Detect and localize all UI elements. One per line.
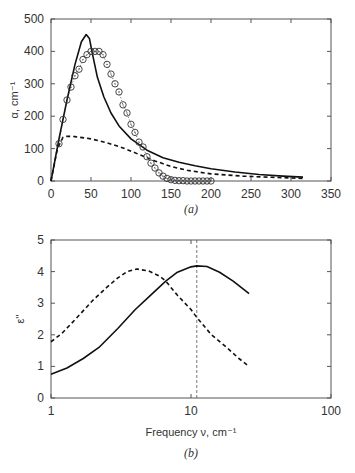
data-marker-dot	[66, 99, 67, 100]
series-dashed	[51, 269, 249, 366]
data-marker-dot	[166, 178, 167, 179]
chart-panel-b: 110100012345	[37, 233, 341, 418]
x-tick-label: 150	[161, 187, 181, 201]
data-marker-dot	[70, 86, 71, 87]
data-marker-dot	[110, 73, 111, 74]
y-tick-label: 500	[24, 12, 44, 26]
figure: 0501001502002503003500100200300400500 11…	[0, 0, 355, 473]
y-tick-label: 100	[24, 142, 44, 156]
data-marker-dot	[98, 51, 99, 52]
data-marker-dot	[134, 132, 135, 133]
x-tick-label: 300	[281, 187, 301, 201]
plot-frame	[51, 19, 331, 181]
y-tick-label: 0	[37, 391, 44, 405]
y-tick-label: 300	[24, 77, 44, 91]
x-tick-label: 50	[84, 187, 98, 201]
y-tick-label: 0	[37, 174, 44, 188]
panel-label-b: (b)	[184, 446, 198, 460]
data-marker-dot	[74, 75, 75, 76]
data-marker-dot	[106, 64, 107, 65]
data-marker-dot	[130, 124, 131, 125]
y-tick-label: 200	[24, 109, 44, 123]
y-tick-label: 1	[37, 359, 44, 373]
x-tick-label: 350	[321, 187, 341, 201]
y-tick-label: 400	[24, 44, 44, 58]
y-axis-label-a: α, cm⁻¹	[8, 81, 20, 118]
data-marker-dot	[118, 91, 119, 92]
x-tick-label: 0	[48, 187, 55, 201]
x-tick-label: 1	[48, 404, 55, 418]
series-solid	[51, 35, 303, 181]
data-marker-dot	[78, 69, 79, 70]
data-marker-dot	[114, 83, 115, 84]
x-tick-label: 10	[184, 404, 198, 418]
x-tick-label: 200	[201, 187, 221, 201]
data-marker-dot	[138, 142, 139, 143]
data-marker-dot	[126, 112, 127, 113]
data-marker-dot	[122, 104, 123, 105]
data-marker-dot	[146, 156, 147, 157]
x-tick-label: 100	[121, 187, 141, 201]
data-marker-dot	[62, 119, 63, 120]
panel-label-a: (a)	[184, 202, 198, 216]
plot-frame	[51, 240, 331, 398]
y-tick-label: 2	[37, 328, 44, 342]
data-marker-dot	[158, 172, 159, 173]
data-marker-dot	[82, 59, 83, 60]
y-tick-label: 3	[37, 296, 44, 310]
data-marker-dot	[162, 176, 163, 177]
y-axis-label-b: ε''	[14, 314, 26, 323]
chart-panel-a: 0501001502002503003500100200300400500	[24, 12, 341, 201]
data-marker-dot	[150, 163, 151, 164]
x-axis-label-b: Frequency ν, cm⁻¹	[146, 426, 237, 438]
x-tick-label: 100	[321, 404, 341, 418]
data-marker-dot	[154, 167, 155, 168]
y-tick-label: 4	[37, 265, 44, 279]
data-marker-dot	[142, 146, 143, 147]
data-marker-dot	[58, 143, 59, 144]
data-marker-dot	[102, 54, 103, 55]
y-tick-label: 5	[37, 233, 44, 247]
data-marker-dot	[86, 54, 87, 55]
data-marker-dot	[210, 180, 211, 181]
series-solid	[51, 266, 249, 374]
x-tick-label: 250	[241, 187, 261, 201]
